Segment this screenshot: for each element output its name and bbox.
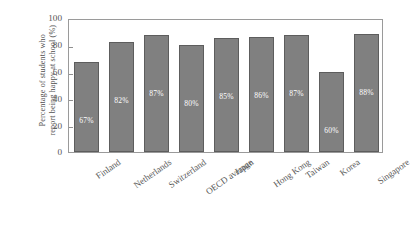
bar-value-label: 86% [249, 91, 274, 100]
bar-value-label: 87% [144, 89, 169, 98]
bar-value-label: 60% [319, 126, 344, 135]
y-axis-title-line-2: report being happy at school (%) [48, 4, 58, 156]
bar-series: 67%82%87%80%85%86%87%60%88% [69, 20, 382, 152]
x-tick-label: Korea [337, 157, 361, 178]
y-tick-label: 0 [40, 148, 62, 157]
y-tick-label: 60 [40, 68, 62, 77]
x-tick-label: Singapore [375, 157, 411, 186]
bar-value-label: 88% [354, 88, 379, 97]
y-tick-label: 40 [40, 95, 62, 104]
x-tick-label: Netherlands [131, 157, 172, 190]
bar-value-label: 82% [109, 96, 134, 105]
y-tick-label: 80 [40, 41, 62, 50]
x-tick-label: Finland [93, 157, 121, 181]
bar-value-label: 67% [74, 116, 99, 125]
y-tick-label: 100 [40, 14, 62, 23]
bar [74, 62, 99, 152]
plot-area: 67%82%87%80%85%86%87%60%88% [68, 19, 383, 153]
bar-value-label: 80% [179, 99, 204, 108]
x-tick-label: Switzerland [166, 157, 207, 190]
bar-value-label: 87% [284, 89, 309, 98]
x-tick-label: Japan [232, 157, 255, 177]
bar-value-label: 85% [214, 92, 239, 101]
y-axis-title-line-1: Percentage of students who [38, 4, 48, 156]
bar [319, 72, 344, 152]
y-tick-label: 20 [40, 122, 62, 131]
